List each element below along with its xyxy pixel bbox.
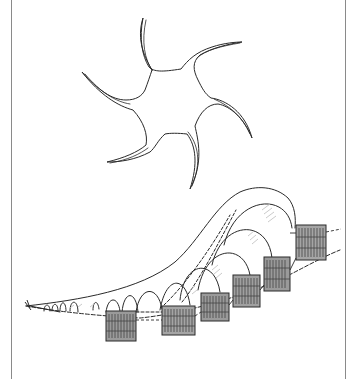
panel-4 xyxy=(233,275,260,307)
sketch-drawing xyxy=(0,0,347,379)
sketch-frame: Hand-drawn pencil sketch: a five/six-arm… xyxy=(0,0,347,379)
left-tip-mark xyxy=(25,300,31,310)
panel-3 xyxy=(201,293,229,321)
star-shape xyxy=(82,18,252,189)
hatched-panels xyxy=(106,225,326,341)
panel-2 xyxy=(162,306,195,335)
panel-1 xyxy=(106,311,136,341)
panel-5 xyxy=(264,257,290,291)
panel-6 xyxy=(296,225,326,260)
tunnel-arches xyxy=(26,188,340,318)
